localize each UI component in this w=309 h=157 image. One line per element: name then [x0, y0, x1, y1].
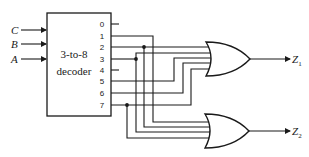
input-label-c: C [11, 24, 19, 36]
input-label-b: B [11, 38, 18, 50]
output-label-2: 2 [100, 43, 105, 52]
output-label-4: 4 [100, 66, 105, 75]
or-gate-z1: Z1 [206, 42, 302, 76]
circuit-diagram: 3-to-8 decoder C B A 0 1 2 3 4 5 6 7 [0, 0, 309, 157]
wiring [111, 24, 213, 138]
output-label-0: 0 [100, 20, 105, 29]
decoder-title-line1: 3-to-8 [61, 48, 88, 60]
output-label-1: 1 [100, 32, 105, 41]
output-label-6: 6 [100, 89, 105, 98]
output-label-5: 5 [100, 77, 105, 86]
decoder-inputs: C B A [10, 24, 46, 65]
input-label-a: A [10, 53, 18, 65]
junction-dot [142, 45, 146, 49]
junction-dot [134, 57, 138, 61]
output-label-7: 7 [100, 101, 105, 110]
output-label-3: 3 [100, 55, 105, 64]
wire-out-6-to-z1 [111, 63, 212, 93]
wire-out-1-to-z2 [111, 36, 210, 122]
output-label-z2: Z2 [292, 125, 302, 140]
wire-out-2-to-z2 [144, 47, 212, 127]
output-label-z1: Z1 [292, 53, 302, 68]
wire-out-7-to-z1 [111, 69, 211, 105]
junction-dot [125, 103, 129, 107]
decoder-title-line2: decoder [57, 65, 92, 77]
or-gate-z2: Z2 [205, 114, 302, 148]
